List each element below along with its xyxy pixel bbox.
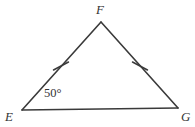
vertex-label-e: E — [5, 110, 13, 123]
vertex-label-g: G — [181, 110, 190, 123]
side-eg-line — [22, 108, 178, 110]
angle-measure-label-e: 50° — [44, 87, 62, 100]
triangle-diagram-svg — [0, 0, 195, 127]
geometry-figure: F E G 50° — [0, 0, 195, 127]
vertex-label-f: F — [96, 3, 104, 16]
tick-mark-fg-icon — [133, 62, 148, 70]
tick-mark-ef-icon — [54, 62, 69, 70]
